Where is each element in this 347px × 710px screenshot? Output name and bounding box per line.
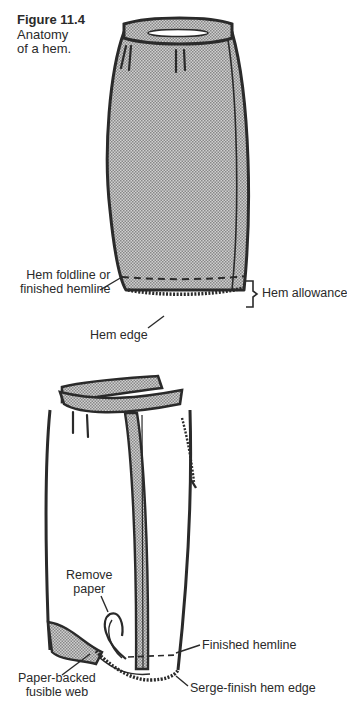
label-remove-paper-line1: Remove	[66, 568, 113, 582]
hem-anatomy-illustration	[0, 0, 347, 710]
figure-title-line1: Anatomy	[17, 28, 97, 43]
label-finished-hemline: Finished hemline	[202, 638, 297, 652]
label-hem-edge: Hem edge	[90, 328, 148, 342]
figure-number: Figure 11.4	[17, 13, 97, 28]
bottom-skirt	[46, 376, 200, 686]
label-remove-paper: Remove paper	[66, 568, 113, 596]
figure-caption: Figure 11.4 Anatomy of a hem.	[17, 13, 97, 57]
label-paper-backed-web: Paper-backed fusible web	[18, 671, 96, 699]
label-hem-allowance: Hem allowance	[262, 286, 347, 300]
figure-title-line2: of a hem.	[17, 42, 97, 57]
label-hem-foldline-line1: Hem foldline or	[20, 268, 110, 282]
label-remove-paper-line2: paper	[66, 582, 113, 596]
label-hem-foldline: Hem foldline or finished hemline	[20, 268, 110, 296]
label-paper-backed-line1: Paper-backed	[18, 671, 96, 685]
top-skirt	[100, 18, 257, 328]
label-paper-backed-line2: fusible web	[18, 685, 96, 699]
label-hem-foldline-line2: finished hemline	[20, 282, 110, 296]
label-serge-finish: Serge-finish hem edge	[190, 681, 316, 695]
